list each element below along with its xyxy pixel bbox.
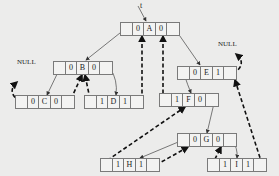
ltag-cell: 0	[28, 96, 40, 108]
tree-node-F: 1 F 0	[159, 93, 219, 107]
tree-node-C: 0 C 0	[15, 95, 75, 109]
data-cell: F	[183, 94, 195, 106]
ltag-cell: 1	[172, 94, 184, 106]
thread-I-E	[235, 80, 262, 164]
lchild-cell	[54, 62, 66, 74]
rchild-cell	[254, 159, 266, 171]
tree-node-B: 0 B 0	[53, 61, 113, 75]
data-cell: E	[201, 67, 213, 79]
rchild-cell	[206, 94, 218, 106]
ltag-cell: 1	[113, 159, 125, 171]
data-cell: I	[231, 159, 243, 171]
tree-node-H: 1 H 1	[100, 158, 160, 172]
rtag-cell: 1	[243, 159, 255, 171]
rtag-cell: 0	[195, 94, 207, 106]
ltag-cell: 1	[220, 159, 232, 171]
lchild-cell	[121, 23, 133, 35]
rchild-cell	[224, 134, 236, 146]
rchild-cell	[131, 96, 143, 108]
data-cell: A	[144, 23, 156, 35]
lchild-cell	[16, 96, 28, 108]
rtag-cell: 1	[120, 96, 132, 108]
rtag-cell: 0	[213, 134, 225, 146]
data-cell: D	[108, 96, 120, 108]
tree-node-G: 0 G 0	[177, 133, 237, 147]
tree-node-I: 1 I 1	[207, 158, 267, 172]
lchild-cell	[178, 67, 190, 79]
rchild-cell	[62, 96, 74, 108]
lchild-cell	[208, 159, 220, 171]
thread-H-F	[102, 107, 185, 164]
tree-node-D: 1 D 1	[84, 95, 144, 109]
lchild-cell	[178, 134, 190, 146]
data-cell: G	[201, 134, 213, 146]
rchild-cell	[167, 23, 179, 35]
rchild-cell	[100, 62, 112, 74]
data-cell: B	[77, 62, 89, 74]
rtag-cell: 0	[51, 96, 63, 108]
rtag-cell: 1	[213, 67, 225, 79]
lchild-cell	[85, 96, 97, 108]
ltag-cell: 0	[190, 67, 202, 79]
rchild-cell	[224, 67, 236, 79]
null-label-left: NULL	[17, 58, 36, 66]
lchild-cell	[101, 159, 113, 171]
data-cell: C	[39, 96, 51, 108]
lchild-cell	[160, 94, 172, 106]
ltag-cell: 1	[97, 96, 109, 108]
rtag-cell: 0	[156, 23, 168, 35]
thread-H-G	[156, 147, 188, 165]
tree-node-A: 0 A 0	[120, 22, 180, 36]
threaded-tree-diagram: t NULL NULL 0 A 0 0 B 0 0 E 1 0 C 0 1 D …	[0, 0, 279, 176]
ltag-cell: 0	[133, 23, 145, 35]
rtag-cell: 1	[136, 159, 148, 171]
rchild-cell	[147, 159, 159, 171]
null-label-right: NULL	[218, 40, 237, 48]
root-pointer-label: t	[140, 1, 142, 10]
data-cell: H	[124, 159, 136, 171]
tree-node-E: 0 E 1	[177, 66, 237, 80]
ltag-cell: 0	[66, 62, 78, 74]
rtag-cell: 0	[89, 62, 101, 74]
ltag-cell: 0	[190, 134, 202, 146]
